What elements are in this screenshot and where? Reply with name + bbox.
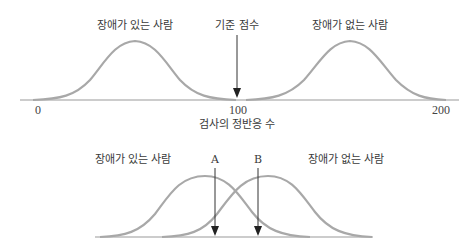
top-label-cutoff: 기준 점수 <box>215 19 259 32</box>
top-label-disabled: 장애가 있는 사람 <box>97 19 174 32</box>
arrow-b-head-icon <box>254 226 262 236</box>
top-label-nondisabled: 장애가 없는 사람 <box>312 19 389 32</box>
tick-100: 100 <box>229 103 247 117</box>
bottom-curve-nondisabled <box>162 176 372 237</box>
bottom-label-nondisabled: 장애가 없는 사람 <box>308 153 385 166</box>
label-a: A <box>210 153 220 166</box>
cutoff-arrowhead-icon <box>233 88 241 98</box>
top-x-axis-label: 검사의 정반응 수 <box>199 118 276 131</box>
bottom-diagram: 장애가 있는 사람 A B 장애가 없는 사람 <box>95 153 385 237</box>
tick-0: 0 <box>35 103 41 117</box>
top-curve-disabled <box>33 41 236 100</box>
label-b: B <box>254 153 262 166</box>
bottom-label-disabled: 장애가 있는 사람 <box>95 153 172 166</box>
diagram-canvas: 장애가 있는 사람 기준 점수 장애가 없는 사람 0 100 200 검사의 … <box>0 0 473 249</box>
top-diagram: 장애가 있는 사람 기준 점수 장애가 없는 사람 0 100 200 검사의 … <box>20 19 459 131</box>
top-curve-nondisabled <box>246 41 446 100</box>
tick-200: 200 <box>432 103 450 117</box>
arrow-a-head-icon <box>211 226 219 236</box>
bottom-curve-disabled <box>100 176 310 237</box>
